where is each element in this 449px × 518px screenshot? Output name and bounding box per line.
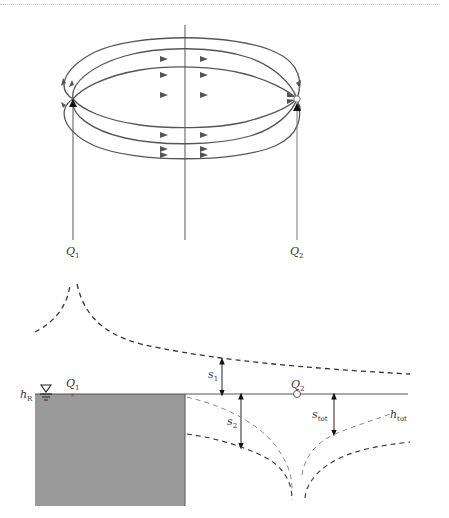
s2-cone-right (305, 442, 410, 498)
streamline-lower-outer (64, 99, 299, 159)
streamline-upper-outer (64, 38, 299, 99)
htot-curve-right (302, 414, 390, 475)
label-q1-top: Q1 (66, 245, 80, 260)
mound-curve-left (35, 284, 70, 332)
label-q2-top: Q2 (290, 245, 304, 260)
flow-arrows (61, 56, 301, 158)
q1-cross-icon: × (70, 391, 75, 398)
label-hR: hR (20, 388, 33, 403)
head-profile-panel: hR Q1 × Q2 s1 s2 stot htot (20, 284, 410, 506)
label-htot: htot (390, 408, 407, 423)
label-s2: s2 (227, 415, 237, 430)
river-block (35, 394, 185, 506)
mound-curve-right (77, 284, 410, 374)
htot-curve-left (187, 397, 292, 490)
label-q1-bottom: Q1 (66, 377, 80, 392)
q2-circle-icon (294, 391, 301, 398)
diagram-canvas: Q1 Q2 hR Q1 × Q2 s1 s2 (0, 0, 449, 518)
label-s1: s1 (208, 368, 218, 383)
label-stot: stot (312, 408, 328, 423)
s2-cone-left (187, 434, 292, 500)
streamline-panel: Q1 Q2 (61, 25, 304, 260)
well-q1-marker (69, 99, 77, 240)
